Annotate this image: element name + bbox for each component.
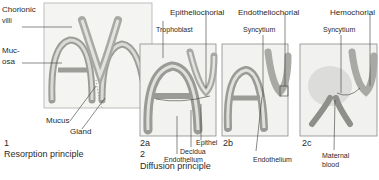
- label-mucosa: Muc-: [2, 47, 20, 55]
- panel-2b-id: 2b: [223, 139, 233, 148]
- label-trophoblast: Trophoblast: [156, 26, 193, 33]
- label-mucus: Mucus: [46, 117, 70, 125]
- panel-1-title: Resorption principle: [4, 150, 84, 159]
- label-maternal-blood-2: blood: [322, 161, 339, 168]
- label-endotheliochorial: Endotheliochorial: [238, 9, 299, 17]
- panel-2c-hemochorial: [300, 14, 377, 150]
- label-maternal-blood: Maternal: [322, 152, 349, 159]
- panel-2-title: Diffusion principle: [140, 162, 211, 171]
- label-decidua: Decidua: [180, 148, 206, 155]
- label-epitheliochorial: Epitheliochorial: [170, 9, 224, 17]
- label-endothelium-2b: Endothelium: [253, 156, 292, 163]
- label-epithel: Epithel: [196, 139, 217, 146]
- label-mucosa-2: osa: [2, 58, 15, 66]
- panel-2c-id: 2c: [302, 139, 312, 148]
- label-hemochorial: Hemochorial: [330, 9, 375, 17]
- label-chorionic-villi-2: villi: [2, 17, 12, 24]
- panel-1-number: 1: [4, 139, 9, 148]
- label-syncytium-2b: Syncytium: [243, 26, 275, 33]
- panel-2b-endotheliochorial: [222, 13, 288, 151]
- label-chorionic-villi: Chorionic: [2, 6, 36, 14]
- label-gland: Gland: [70, 128, 91, 136]
- panel-2-number: 2: [140, 150, 145, 159]
- panel-1-resorption: [22, 3, 152, 129]
- label-syncytium-2c: Syncytium: [323, 26, 355, 33]
- panel-2a-id: 2a: [140, 139, 150, 148]
